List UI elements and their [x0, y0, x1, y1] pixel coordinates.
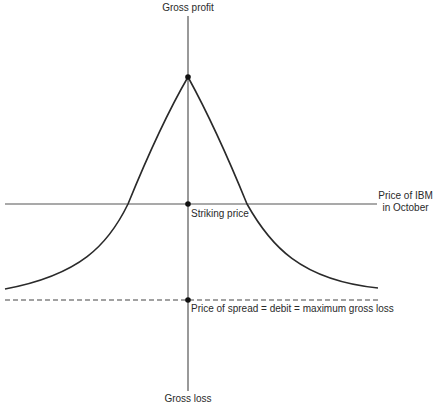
- peak-point: [185, 74, 191, 80]
- max-loss-point: [185, 297, 191, 303]
- price-axis-label-line1: Price of IBM: [378, 190, 433, 202]
- payoff-curve-left: [5, 77, 188, 289]
- max-loss-label: Price of spread = debit = maximum gross …: [191, 303, 394, 315]
- striking-price-label: Striking price: [191, 208, 249, 220]
- gross-profit-label: Gross profit: [148, 2, 228, 14]
- gross-loss-label: Gross loss: [148, 393, 228, 405]
- payoff-diagram: [0, 0, 433, 407]
- striking-price-point: [185, 201, 191, 207]
- price-axis-label: Price of IBM in October: [378, 190, 433, 214]
- payoff-curve-right: [188, 77, 378, 288]
- price-axis-label-line2: in October: [378, 202, 433, 214]
